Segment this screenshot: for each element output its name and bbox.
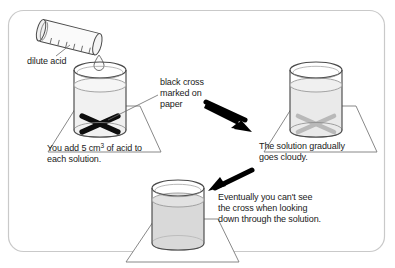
label-solution-goes-cloudy: The solution gradually goes cloudy. [259, 141, 345, 163]
you-add-line1-pre: You add 5 cm [47, 143, 101, 153]
experiment-diagram [0, 0, 395, 268]
label-eventually-cant-see-cross: Eventually you can't see the cross when … [218, 192, 321, 225]
label-dilute-acid: dilute acid [27, 56, 66, 67]
you-add-line1-post: of acid to [104, 143, 142, 153]
figure-container: dilute acid black cross marked on paper … [0, 0, 395, 268]
you-add-line2: each solution. [47, 154, 101, 164]
label-you-add-acid: You add 5 cm3 of acid toeach solution. [47, 143, 142, 165]
label-black-cross: black cross marked on paper [160, 77, 204, 110]
